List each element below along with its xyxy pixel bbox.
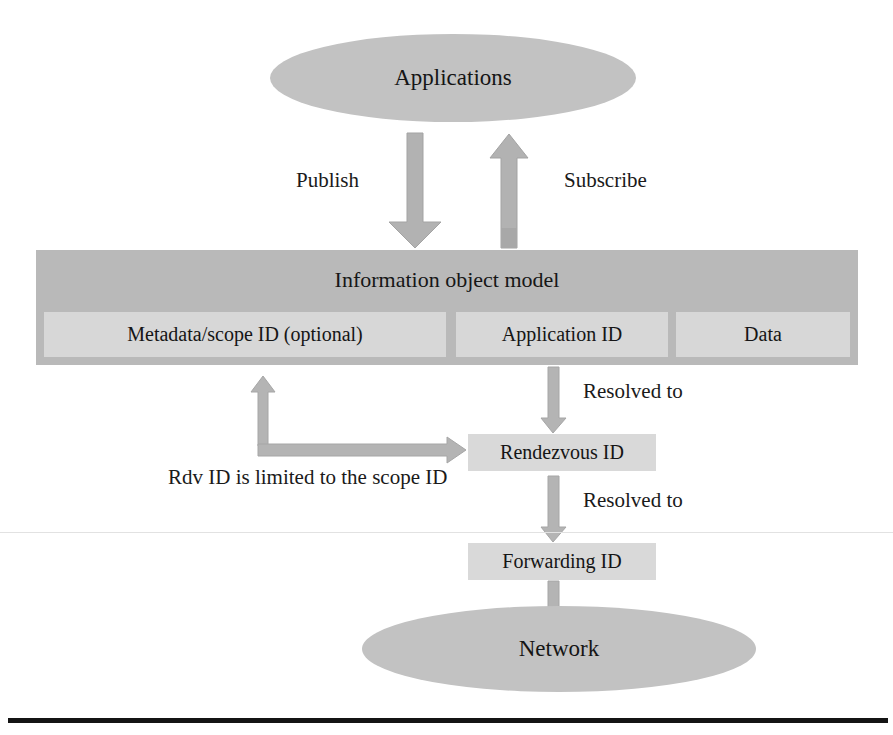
bottom-rule xyxy=(8,718,888,723)
publish-edge-label: Publish xyxy=(296,168,359,193)
information-object-model-label: Information object model xyxy=(36,262,858,298)
diagram-canvas: Applications Publish S xyxy=(0,0,893,735)
subscribe-edge-label: Subscribe xyxy=(564,168,647,193)
data-slot: Data xyxy=(676,312,850,357)
rendezvous-id-node: Rendezvous ID xyxy=(468,434,656,471)
page-scan-line xyxy=(0,532,893,533)
rendezvous-id-label: Rendezvous ID xyxy=(468,434,656,471)
forwarding-id-node: Forwarding ID xyxy=(468,543,656,580)
metadata-scope-id-slot: Metadata/scope ID (optional) xyxy=(44,312,446,357)
resolved-to-rendezvous-label: Resolved to xyxy=(583,379,683,404)
network-node xyxy=(362,606,756,692)
rdv-scope-elbow-arrow xyxy=(251,376,466,463)
forwarding-id-label: Forwarding ID xyxy=(468,543,656,580)
data-label: Data xyxy=(676,312,850,357)
information-object-model-node: Information object model Metadata/scope … xyxy=(36,250,858,365)
application-id-slot: Application ID xyxy=(456,312,668,357)
applications-node xyxy=(270,34,636,122)
resolved-to-forwarding-label: Resolved to xyxy=(583,488,683,513)
application-id-label: Application ID xyxy=(456,312,668,357)
metadata-scope-id-label: Metadata/scope ID (optional) xyxy=(44,312,446,357)
rdv-scope-constraint-label: Rdv ID is limited to the scope ID xyxy=(168,465,447,490)
resolved-to-rendezvous-arrow xyxy=(541,367,566,433)
subscribe-arrow xyxy=(490,134,528,248)
publish-arrow xyxy=(389,133,441,248)
